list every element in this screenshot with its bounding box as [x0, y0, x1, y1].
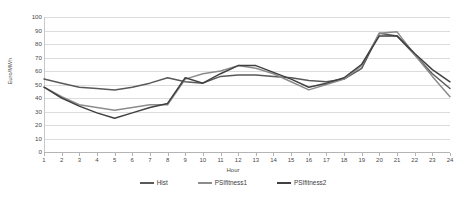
- x-axis-tick-mark: [132, 153, 133, 156]
- series-line-psifitness2: [44, 36, 450, 118]
- line-chart: 0102030405060708090100 Euro/MWh 12345678…: [0, 0, 466, 203]
- legend-swatch-icon: [140, 182, 154, 184]
- y-axis-tick-label: 90: [35, 27, 42, 33]
- legend-label: PSIfitness1: [215, 180, 247, 186]
- y-axis-tick-label: 20: [35, 122, 42, 128]
- x-axis-tick-mark: [256, 153, 257, 156]
- legend-item-psifitness1[interactable]: PSIfitness1: [198, 180, 247, 186]
- legend-label: PSIfitness2: [294, 180, 326, 186]
- x-axis-tick-mark: [185, 153, 186, 156]
- x-axis-tick-label: 24: [447, 157, 454, 163]
- x-axis-tick-label: 23: [429, 157, 436, 163]
- x-axis-tick-mark: [44, 153, 45, 156]
- x-axis-tick-mark: [168, 153, 169, 156]
- x-axis-tick-label: 3: [78, 157, 81, 163]
- x-axis-tick-mark: [79, 153, 80, 156]
- x-axis-tick-mark: [291, 153, 292, 156]
- series-layer: [44, 17, 450, 152]
- x-axis-tick-label: 11: [217, 157, 223, 163]
- y-axis-tick-label: 60: [35, 68, 42, 74]
- x-axis-tick-label: 6: [131, 157, 134, 163]
- y-axis-title: Euro/MWh: [7, 43, 13, 99]
- x-axis-tick-mark: [309, 153, 310, 156]
- x-axis-tick-label: 8: [166, 157, 169, 163]
- x-axis-tick-label: 12: [235, 157, 242, 163]
- x-axis-tick-mark: [203, 153, 204, 156]
- x-axis-tick-mark: [150, 153, 151, 156]
- series-line-psifitness1: [44, 32, 450, 110]
- x-axis-tick-label: 16: [305, 157, 312, 163]
- x-axis-tick-mark: [379, 153, 380, 156]
- x-axis-tick-mark: [115, 153, 116, 156]
- x-axis-tick-label: 1: [42, 157, 45, 163]
- x-axis-tick-label: 9: [184, 157, 187, 163]
- chart-legend: HistPSIfitness1PSIfitness2: [0, 180, 466, 186]
- series-line-hist: [44, 33, 450, 90]
- y-axis-tick-label: 40: [35, 95, 42, 101]
- x-axis-tick-mark: [432, 153, 433, 156]
- x-axis-tick-label: 10: [200, 157, 207, 163]
- x-axis-tick-label: 20: [376, 157, 383, 163]
- x-axis-tick-mark: [273, 153, 274, 156]
- x-axis-labels: 123456789101112131415161718192021222324: [44, 153, 450, 167]
- x-axis-tick-label: 2: [60, 157, 63, 163]
- legend-swatch-icon: [198, 182, 212, 184]
- y-axis-tick-label: 30: [35, 108, 42, 114]
- x-axis-tick-label: 13: [252, 157, 259, 163]
- y-axis-tick-label: 0: [39, 149, 42, 155]
- x-axis-tick-label: 4: [95, 157, 98, 163]
- x-axis-tick-mark: [62, 153, 63, 156]
- x-axis-tick-mark: [450, 153, 451, 156]
- x-axis-tick-label: 19: [358, 157, 365, 163]
- x-axis-tick-label: 14: [270, 157, 277, 163]
- x-axis-tick-label: 17: [323, 157, 330, 163]
- y-axis-tick-label: 100: [32, 14, 42, 20]
- legend-item-psifitness2[interactable]: PSIfitness2: [277, 180, 326, 186]
- x-axis-tick-mark: [221, 153, 222, 156]
- x-axis-tick-label: 22: [411, 157, 418, 163]
- legend-item-hist[interactable]: Hist: [140, 180, 168, 186]
- x-axis-tick-mark: [362, 153, 363, 156]
- x-axis-tick-label: 18: [341, 157, 348, 163]
- plot-area: [44, 17, 450, 152]
- x-axis-tick-label: 21: [394, 157, 401, 163]
- x-axis-tick-mark: [238, 153, 239, 156]
- x-axis-tick-mark: [415, 153, 416, 156]
- x-axis-tick-mark: [326, 153, 327, 156]
- x-axis-title: Hour: [0, 167, 466, 173]
- x-axis-tick-label: 15: [288, 157, 295, 163]
- x-axis-tick-mark: [97, 153, 98, 156]
- legend-label: Hist: [157, 180, 168, 186]
- x-axis-tick-label: 7: [148, 157, 151, 163]
- y-axis-tick-label: 70: [35, 54, 42, 60]
- x-axis-tick-mark: [344, 153, 345, 156]
- y-axis-tick-label: 80: [35, 41, 42, 47]
- y-axis-tick-label: 50: [35, 81, 42, 87]
- legend-swatch-icon: [277, 182, 291, 184]
- y-axis-labels: 0102030405060708090100: [16, 17, 42, 152]
- y-axis-tick-label: 10: [35, 135, 42, 141]
- x-axis-tick-label: 5: [113, 157, 116, 163]
- x-axis-tick-mark: [397, 153, 398, 156]
